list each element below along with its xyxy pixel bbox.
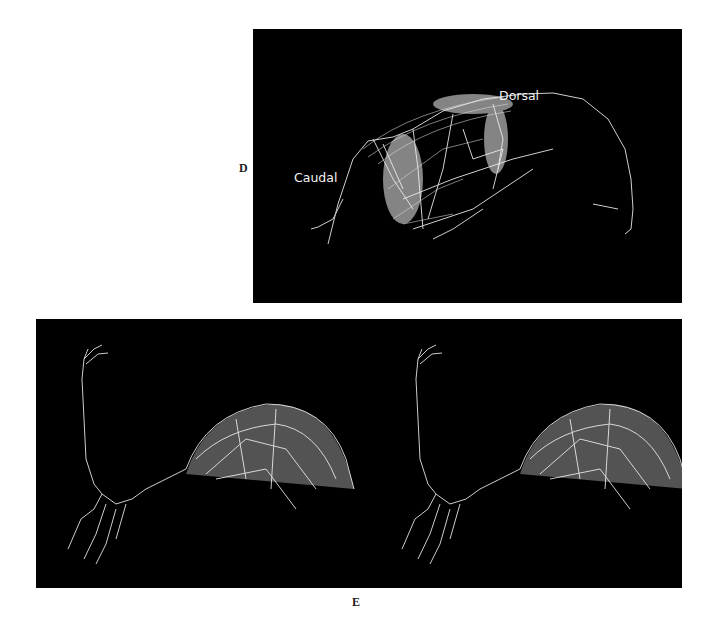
panel-e-label: E xyxy=(352,595,360,610)
panel-d-label: D xyxy=(239,161,248,176)
panel-d-image: Caudal Dorsal xyxy=(253,29,682,303)
panel-e-image xyxy=(36,319,682,588)
caudal-annotation: Caudal xyxy=(294,170,337,185)
neuron-arbor-d xyxy=(253,29,682,303)
dorsal-annotation: Dorsal xyxy=(499,88,539,103)
neuron-arbor-stereo-pair xyxy=(36,319,682,588)
